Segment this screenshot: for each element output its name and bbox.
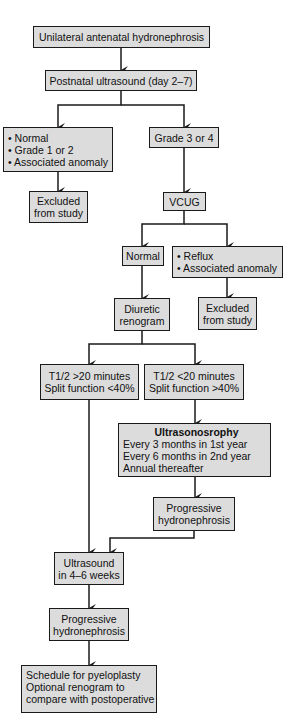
node-text-line: • Normal bbox=[8, 132, 48, 144]
node-reflux-associated-anomaly: • Reflux• Associated anomaly bbox=[172, 246, 283, 278]
node-text-line: renogram bbox=[120, 315, 165, 327]
node-text-line: in 4–6 weeks bbox=[58, 569, 119, 581]
arrow-postnatal_us-to-normal_grade12 bbox=[58, 91, 121, 127]
node-text-line: Optional renogram to bbox=[26, 681, 125, 693]
node-text-line: VCUG bbox=[169, 196, 199, 208]
node-progressive-hydronephrosis-1: Progressivehydronephrosis bbox=[153, 497, 235, 531]
node-progressive-hydronephrosis-2: Progressivehydronephrosis bbox=[49, 608, 129, 641]
node-unilateral-antenatal-hydronephrosis: Unilateral antenatal hydronephrosis bbox=[33, 26, 210, 48]
node-title: Ultrasonosrophy bbox=[154, 426, 238, 438]
node-text-line: Progressive bbox=[61, 613, 116, 625]
node-normal-grade-1-2: • Normal• Grade 1 or 2• Associated anoma… bbox=[3, 127, 113, 172]
node-text-line: Unilateral antenatal hydronephrosis bbox=[39, 31, 204, 43]
node-text-line: Split function >40% bbox=[149, 382, 239, 394]
node-text-line: T1/2 <20 minutes bbox=[153, 370, 234, 382]
node-t12-over-20-minutes: T1/2 >20 minutesSplit function <40% bbox=[40, 364, 139, 400]
node-vcug-normal: Normal bbox=[122, 246, 164, 266]
arrow-diuretic_renogram-to-t12_lt20 bbox=[142, 344, 195, 364]
arrow-progressive_1-to-us_4_6_weeks bbox=[110, 531, 194, 552]
node-text-line: • Reflux bbox=[177, 250, 213, 262]
arrow-postnatal_us-to-grade34 bbox=[121, 105, 184, 127]
node-excluded-from-study-2: Excludedfrom study bbox=[198, 297, 257, 330]
node-diuretic-renogram: Diureticrenogram bbox=[114, 298, 170, 331]
node-text-line: Split function <40% bbox=[44, 382, 134, 394]
node-text-line: • Associated anomaly bbox=[8, 156, 108, 168]
node-text-line: Diuretic bbox=[124, 303, 160, 315]
node-text-line: Normal bbox=[126, 250, 160, 262]
node-text-line: Schedule for pyeloplasty bbox=[26, 669, 140, 681]
node-text-line: Progressive bbox=[166, 502, 221, 514]
node-postnatal-ultrasound: Postnatal ultrasound (day 2–7) bbox=[45, 70, 197, 91]
arrow-vcug-to-reflux bbox=[184, 224, 227, 246]
node-text-line: Excluded bbox=[37, 195, 80, 207]
node-text-line: Every 3 months in 1st year bbox=[123, 438, 247, 450]
node-ultrasound-4-6-weeks: Ultrasoundin 4–6 weeks bbox=[54, 552, 124, 585]
node-text-line: Ultrasound bbox=[64, 557, 115, 569]
node-text-line: from study bbox=[203, 314, 252, 326]
node-text-line: Grade 3 or 4 bbox=[155, 132, 214, 144]
node-t12-under-20-minutes: T1/2 <20 minutesSplit function >40% bbox=[144, 364, 244, 400]
node-vcug: VCUG bbox=[163, 192, 206, 211]
node-text-line: from study bbox=[34, 207, 83, 219]
node-text-line: hydronephrosis bbox=[158, 514, 230, 526]
node-text-line: hydronephrosis bbox=[53, 625, 125, 637]
arrow-diuretic_renogram-to-t12_gt20 bbox=[89, 331, 142, 364]
node-text-line: Annual thereafter bbox=[123, 462, 204, 474]
node-text-line: Postnatal ultrasound (day 2–7) bbox=[49, 75, 192, 87]
node-text-line: • Grade 1 or 2 bbox=[8, 144, 74, 156]
node-excluded-from-study-1: Excludedfrom study bbox=[29, 191, 88, 223]
node-grade-3-or-4: Grade 3 or 4 bbox=[149, 127, 219, 148]
node-text-line: compare with postoperative bbox=[26, 693, 154, 705]
node-text-line: • Associated anomaly bbox=[177, 262, 277, 274]
node-ultrasonography-schedule: UltrasonosrophyEvery 3 months in 1st yea… bbox=[118, 423, 271, 477]
node-text-line: Excluded bbox=[206, 302, 249, 314]
node-schedule-for-pyeloplasty: Schedule for pyeloplastyOptional renogra… bbox=[21, 665, 157, 713]
node-text-line: T1/2 >20 minutes bbox=[49, 370, 130, 382]
node-text-line: Every 6 months in 2nd year bbox=[123, 450, 251, 462]
arrow-vcug-to-vcug_normal bbox=[142, 211, 184, 246]
